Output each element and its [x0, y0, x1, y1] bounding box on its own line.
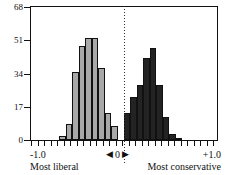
zero-reference-line — [124, 6, 125, 165]
x-tick-mark — [194, 141, 195, 146]
histogram-figure: 017345168 -1.0 ◀ 0 ▶ +1.0 Most liberal M… — [0, 0, 225, 175]
histogram-bar — [156, 85, 163, 140]
y-tick-mark — [24, 107, 30, 108]
y-tick-mark — [24, 40, 30, 41]
x-tick-mark — [90, 141, 91, 146]
x-zero-marker: ◀ 0 ▶ — [106, 149, 129, 160]
x-tick-mark — [181, 141, 182, 146]
x-tick-mark — [200, 141, 201, 146]
x-tick-mark — [109, 141, 110, 146]
y-tick-mark — [24, 7, 30, 8]
histogram-bar — [59, 136, 66, 140]
x-tick-mark — [70, 141, 71, 146]
x-tick-mark — [44, 141, 45, 146]
x-tick-mark — [213, 141, 214, 146]
x-tick-mark — [155, 141, 156, 146]
x-tick-label-zero: 0 — [115, 149, 120, 160]
x-tick-mark — [64, 141, 65, 146]
x-tick-mark — [207, 141, 208, 146]
x-tick-mark — [168, 141, 169, 146]
left-arrow-icon: ◀ — [106, 150, 113, 159]
x-tick-mark — [96, 141, 97, 146]
y-tick-label: 17 — [14, 102, 23, 111]
x-tick-mark — [129, 141, 130, 146]
x-tick-label-max: +1.0 — [203, 150, 221, 160]
histogram-bar — [150, 48, 157, 140]
x-tick-mark — [148, 141, 149, 146]
x-tick-mark — [38, 141, 39, 146]
histogram-bar — [130, 97, 137, 140]
histogram-bar — [111, 126, 118, 140]
x-tick-mark — [116, 141, 117, 146]
x-tick-mark — [142, 141, 143, 146]
x-tick-mark — [83, 141, 84, 146]
y-tick-label: 0 — [19, 136, 24, 145]
x-tick-mark — [135, 141, 136, 146]
x-tick-mark — [51, 141, 52, 146]
histogram-bar — [85, 38, 92, 140]
x-tick-mark — [77, 141, 78, 146]
x-tick-mark — [31, 141, 32, 146]
y-tick-mark — [24, 140, 30, 141]
x-tick-label-min: -1.0 — [30, 150, 46, 160]
x-axis-caption-left: Most liberal — [30, 162, 79, 172]
y-tick-label: 68 — [14, 3, 23, 12]
histogram-bar — [72, 72, 79, 140]
right-arrow-icon: ▶ — [122, 150, 129, 159]
histogram-bar — [137, 85, 144, 140]
x-tick-mark — [103, 141, 104, 146]
y-tick-label: 34 — [14, 69, 23, 78]
x-tick-mark — [57, 141, 58, 146]
histogram-bar — [169, 134, 176, 140]
y-tick-label: 51 — [14, 36, 23, 45]
histogram-bar — [176, 138, 183, 140]
y-tick-mark — [24, 74, 30, 75]
x-tick-mark — [187, 141, 188, 146]
x-tick-mark — [122, 141, 123, 146]
histogram-bar — [92, 38, 99, 140]
y-axis: 017345168 — [0, 0, 30, 147]
x-tick-mark — [174, 141, 175, 146]
histogram-bar — [105, 113, 112, 140]
x-axis-caption-right: Most conservative — [147, 162, 221, 172]
x-tick-mark — [161, 141, 162, 146]
